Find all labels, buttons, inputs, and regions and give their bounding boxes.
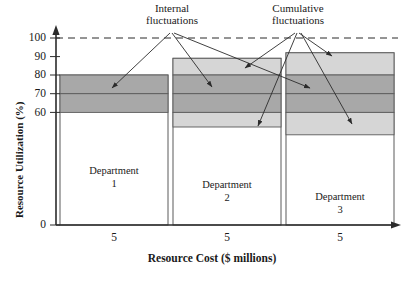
band-dark-70-80 — [60, 75, 168, 94]
band-dark-70-80 — [173, 75, 281, 94]
band-dark-60-70 — [60, 94, 168, 113]
annotation-line2: fluctuations — [126, 14, 218, 26]
band-light-56-60 — [173, 112, 281, 127]
bar-label-line2: 2 — [187, 191, 267, 204]
band-light-80-92 — [286, 53, 394, 75]
annotation-line2: fluctuations — [248, 14, 348, 26]
annotation-line1: Cumulative — [248, 2, 348, 14]
annotation-line1: Internal — [126, 2, 218, 14]
annotation-internal-fluctuations: Internal fluctuations — [126, 2, 218, 27]
bar-label-line1: Department — [74, 164, 154, 177]
y-tick-label-80: 80 — [16, 68, 46, 80]
bar-label-department-3: Department 3 — [300, 190, 380, 216]
y-tick-label-70: 70 — [16, 87, 46, 99]
y-tick-label-0: 0 — [16, 218, 46, 230]
bar-label-line2: 3 — [300, 203, 380, 216]
chart-canvas — [0, 0, 405, 287]
x-axis-title: Resource Cost ($ millions) — [122, 252, 302, 264]
band-dark-70-80 — [286, 75, 394, 94]
chart-figure: 100 90 80 70 60 0 Resource Utilization (… — [0, 0, 405, 287]
band-light-48-60 — [286, 112, 394, 134]
x-tick-label-3: 5 — [320, 231, 360, 243]
y-tick-label-100: 100 — [16, 31, 46, 43]
bar-department-1 — [60, 75, 168, 225]
band-light-80-89 — [173, 58, 281, 75]
bar-label-department-2: Department 2 — [187, 178, 267, 204]
y-tick-label-90: 90 — [16, 50, 46, 62]
bar-label-line1: Department — [187, 178, 267, 191]
annotation-cumulative-fluctuations: Cumulative fluctuations — [248, 2, 348, 27]
bar-label-line2: 1 — [74, 177, 154, 190]
y-axis — [50, 25, 60, 225]
y-axis-title: Resource Utilization (%) — [13, 102, 25, 219]
bar-label-department-1: Department 1 — [74, 164, 154, 190]
x-tick-label-2: 5 — [207, 231, 247, 243]
bar-label-line1: Department — [300, 190, 380, 203]
x-tick-label-1: 5 — [94, 231, 134, 243]
